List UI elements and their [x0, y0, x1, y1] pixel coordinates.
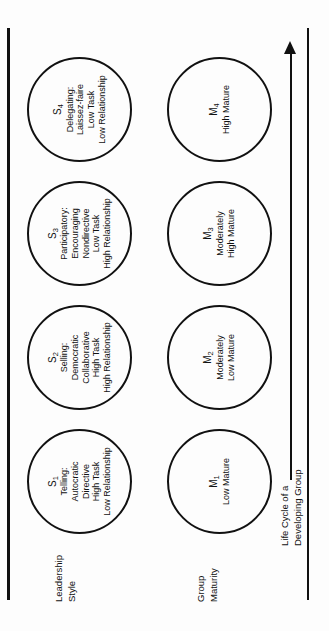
maturity-line: High Mature [225, 208, 236, 257]
leadership-style-circle-s1: S1 Telling: Autocratic Directive High Ta… [27, 429, 132, 534]
style-code-s2: S2 [46, 352, 58, 363]
row-label-line: Group [195, 568, 208, 602]
style-line: High Task [91, 337, 102, 376]
maturity-line: High Mature [220, 84, 231, 133]
maturity-line: Low Mature [225, 333, 236, 380]
style-line: Encouraging [70, 208, 81, 259]
style-line: Laissez-faire [75, 83, 86, 134]
life-cycle-arrow-group: Life Cycle of a Developing Group [281, 46, 307, 546]
row-label-leadership-style: Leadership Style [53, 554, 79, 601]
left-border-rule [7, 28, 10, 600]
style-code-s1: S1 [46, 476, 58, 487]
style-code-s3: S3 [46, 228, 58, 239]
style-line: Selling: [59, 342, 70, 372]
maturity-code-m3: M3 [202, 227, 214, 240]
arrow-caption-line: Developing Group [291, 469, 304, 546]
diagram-plane: Leadership Style Group Maturity S1 Telli… [19, 30, 311, 602]
style-line: Delegating: [64, 86, 75, 132]
row-label-line: Maturity [207, 568, 220, 602]
style-line: Nondirective [80, 208, 91, 258]
life-cycle-arrow-caption: Life Cycle of a Developing Group [279, 469, 305, 546]
style-line: Democratic [70, 334, 81, 380]
maturity-code-m4: M4 [207, 103, 219, 116]
style-line: High Relationship [101, 322, 112, 393]
life-cycle-leadership-figure: Leadership Style Group Maturity S1 Telli… [0, 0, 329, 631]
arrow-head-icon [284, 41, 296, 54]
style-line: Participatory: [59, 207, 70, 260]
group-maturity-circle-m3: M3 Moderately High Mature [167, 181, 272, 286]
leadership-style-circle-s3: S3 Participatory: Encouraging Nondirecti… [27, 181, 132, 286]
style-line: Collaborative [80, 331, 91, 384]
style-line: Low Relationship [101, 447, 112, 516]
leadership-style-circle-s2: S2 Selling: Democratic Collaborative Hig… [27, 305, 132, 410]
maturity-code-m2: M2 [202, 351, 214, 364]
arrow-caption-line: Life Cycle of a [279, 469, 292, 546]
group-maturity-circle-m2: M2 Moderately Low Mature [167, 305, 272, 410]
style-line: High Task [91, 461, 102, 500]
style-line: Directive [80, 464, 91, 499]
style-code-s4: S4 [51, 104, 63, 115]
group-maturity-circle-m4: M4 High Mature [167, 57, 272, 162]
group-maturity-circle-m1: M1 Low Mature [167, 429, 272, 534]
style-line: Low Task [91, 214, 102, 251]
leadership-style-circle-s4: S4 Delegating: Laissez-faire Low Task Lo… [27, 57, 132, 162]
row-label-line: Leadership [53, 554, 66, 601]
maturity-line: Moderately [215, 211, 226, 256]
arrow-shaft [290, 50, 292, 480]
row-label-group-maturity: Group Maturity [195, 568, 221, 602]
style-line: Low Relationship [96, 75, 107, 144]
style-line: Low Task [85, 90, 96, 127]
maturity-line: Moderately [215, 335, 226, 380]
maturity-code-m1: M1 [207, 475, 219, 488]
style-line: High Relationship [101, 198, 112, 269]
style-line: Telling: [59, 467, 70, 495]
row-label-line: Style [65, 554, 78, 601]
style-line: Autocratic [70, 461, 81, 501]
maturity-line: Low Mature [220, 457, 231, 504]
